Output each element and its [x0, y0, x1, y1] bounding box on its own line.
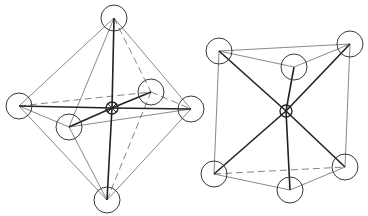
prism-edge [345, 44, 350, 167]
prism-edge [214, 174, 290, 190]
prism-edge [294, 44, 350, 67]
trigonal-prism-figure [201, 31, 363, 203]
octahedron-figure [6, 5, 204, 213]
octahedron-hidden-edge [19, 92, 151, 106]
octahedron-bond-right [112, 108, 191, 109]
octahedron-bond-bottom [107, 108, 112, 200]
octahedron-edge [19, 106, 107, 200]
octahedron-edge [114, 18, 191, 109]
prism-bond-bottom-left [214, 111, 286, 174]
prism-edge [219, 44, 350, 51]
diagram-svg [0, 0, 368, 216]
octahedron-edge [69, 127, 107, 200]
prism-bond-bottom-front [286, 111, 290, 190]
octahedron-edge [19, 18, 114, 106]
prism-hidden-edge [214, 167, 345, 174]
coordination-geometry-diagram [0, 0, 368, 216]
octahedron-edge [107, 109, 191, 200]
octahedron-hidden-edge [151, 92, 191, 109]
prism-bond-bottom-right [286, 111, 345, 167]
octahedron-bond-top [112, 18, 114, 108]
prism-edge [214, 51, 219, 174]
prism-edge [290, 167, 345, 190]
prism-edge [219, 51, 294, 67]
octahedron-bond-left [19, 106, 112, 108]
octahedron-edge [69, 109, 191, 127]
